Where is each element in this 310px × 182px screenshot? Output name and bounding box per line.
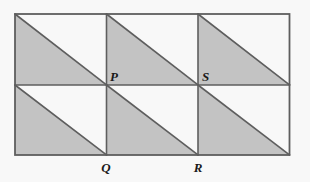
vertex-label-r: R [193, 160, 203, 175]
vertex-label-q: Q [101, 160, 111, 175]
geometry-diagram: P S Q R [0, 0, 310, 182]
vertex-label-p: P [110, 69, 119, 84]
vertex-label-s: S [202, 69, 209, 84]
geometry-figure: P S Q R [0, 0, 310, 182]
